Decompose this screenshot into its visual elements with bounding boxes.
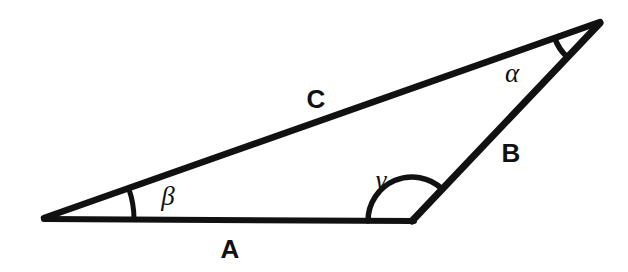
angle-beta-label: β: [160, 181, 175, 211]
triangle-diagram: A B C α β γ: [0, 0, 628, 272]
angle-gamma-label: γ: [376, 165, 388, 195]
angle-alpha-label: α: [505, 58, 520, 88]
side-a-line: [44, 219, 414, 221]
side-c-label: C: [307, 84, 326, 114]
alpha-arc: [555, 38, 567, 57]
side-b-label: B: [502, 138, 521, 168]
side-a-label: A: [221, 234, 240, 264]
beta-arc: [129, 189, 134, 219]
triangle-figure: A B C α β γ: [0, 0, 628, 272]
